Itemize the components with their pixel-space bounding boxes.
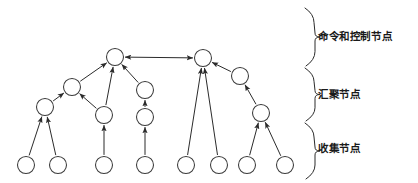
- node-layer: [18, 49, 294, 174]
- edge-a5-to-a1: [80, 94, 97, 109]
- node-s7[interactable]: [239, 157, 256, 174]
- edge-a1-to-c1: [80, 63, 106, 81]
- tier-label-aggregation: 汇聚节点: [318, 89, 360, 100]
- edge-a4-to-a1: [53, 93, 64, 101]
- node-s4[interactable]: [137, 157, 154, 174]
- node-a5[interactable]: [96, 107, 113, 124]
- node-s6[interactable]: [211, 157, 228, 174]
- edge-s5-to-c2: [188, 68, 202, 155]
- node-s2[interactable]: [50, 157, 67, 174]
- node-a6[interactable]: [137, 109, 154, 126]
- node-s3[interactable]: [96, 157, 113, 174]
- node-s8[interactable]: [277, 157, 294, 174]
- tier-label-collection: 收集节点: [318, 143, 360, 154]
- node-c2[interactable]: [195, 50, 212, 67]
- tier-label-command-control: 命令和控制节点: [318, 31, 392, 42]
- edge-a3-to-c2: [212, 62, 231, 71]
- node-a4[interactable]: [37, 99, 54, 116]
- edge-s1-to-a4: [29, 117, 42, 156]
- edge-s8-to-a7: [265, 122, 281, 156]
- edge-a5-to-c1: [106, 67, 113, 105]
- edge-s6-to-c2: [204, 68, 217, 155]
- node-a1[interactable]: [64, 79, 81, 96]
- node-a7[interactable]: [253, 105, 270, 122]
- node-s5[interactable]: [178, 157, 195, 174]
- node-c1[interactable]: [107, 49, 124, 66]
- edge-s7-to-a7: [250, 123, 259, 156]
- edge-a7-to-a3: [245, 85, 256, 104]
- node-s1[interactable]: [18, 157, 35, 174]
- node-a3[interactable]: [232, 68, 249, 85]
- edge-a2-to-c1: [122, 64, 138, 82]
- network-hierarchy-diagram: 命令和控制节点 汇聚节点 收集节点: [0, 0, 418, 183]
- edge-c1-to-c2: [125, 57, 193, 58]
- edge-s2-to-a4: [47, 117, 56, 155]
- node-a2[interactable]: [137, 82, 154, 99]
